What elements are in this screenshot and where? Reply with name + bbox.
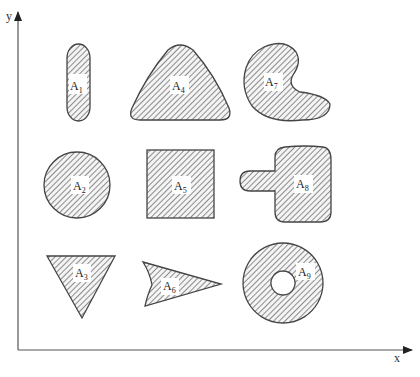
x-axis-label: x (394, 351, 400, 365)
shape-a8: A8 (240, 146, 331, 222)
shape-a9: A9 (243, 243, 323, 323)
shape-a2: A2 (44, 152, 110, 218)
y-axis-label: y (6, 9, 12, 23)
shape-a5: A5 (147, 150, 214, 218)
shape-a3: A3 (47, 256, 115, 318)
area-diagram: y x A1 A4 A7 A2 A5 A8 A3 (0, 0, 420, 377)
shape-a6: A6 (143, 262, 221, 306)
shape-a4: A4 (131, 45, 230, 120)
shape-a7: A7 (244, 43, 330, 120)
shape-a1: A1 (67, 44, 90, 121)
